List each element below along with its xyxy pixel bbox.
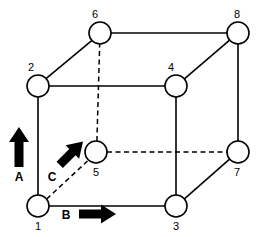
edge-2-6 [46, 41, 91, 79]
cube-diagram-canvas: 1 2 3 4 5 6 7 8 A B C [0, 0, 262, 237]
vertex-label-5: 5 [93, 166, 99, 178]
vertex-6[interactable] [89, 22, 111, 44]
vertex-labels-group: 1 2 3 4 5 6 7 8 [28, 8, 240, 232]
vertex-7[interactable] [227, 141, 249, 163]
arrow-c-icon [53, 135, 90, 172]
vertex-5[interactable] [85, 141, 107, 163]
arrow-a-group: A [9, 127, 29, 184]
hidden-edges-group [47, 44, 227, 199]
vertex-label-4: 4 [168, 61, 174, 73]
vertex-2[interactable] [27, 75, 49, 97]
arrow-a-icon [9, 127, 29, 167]
vertex-label-2: 2 [28, 61, 34, 73]
arrow-c-label: C [48, 170, 57, 184]
vertex-3[interactable] [165, 195, 187, 217]
edge-4-8 [184, 40, 229, 79]
edge-3-7 [184, 159, 229, 199]
vertex-4[interactable] [165, 75, 187, 97]
vertex-label-3: 3 [173, 220, 179, 232]
arrow-b-label: B [62, 208, 71, 222]
edge-5-6 [97, 44, 100, 141]
arrow-b-group: B [62, 205, 116, 224]
arrow-c-group: C [48, 135, 90, 184]
vertex-1[interactable] [27, 195, 49, 217]
vertex-label-6: 6 [92, 8, 98, 20]
vertex-label-7: 7 [234, 166, 240, 178]
vertex-label-8: 8 [234, 8, 240, 20]
vertex-label-1: 1 [35, 220, 41, 232]
arrow-a-label: A [15, 170, 24, 184]
arrow-b-icon [79, 205, 116, 224]
cube-vertex-diagram: 1 2 3 4 5 6 7 8 A B C [0, 0, 262, 237]
vertex-8[interactable] [227, 22, 249, 44]
